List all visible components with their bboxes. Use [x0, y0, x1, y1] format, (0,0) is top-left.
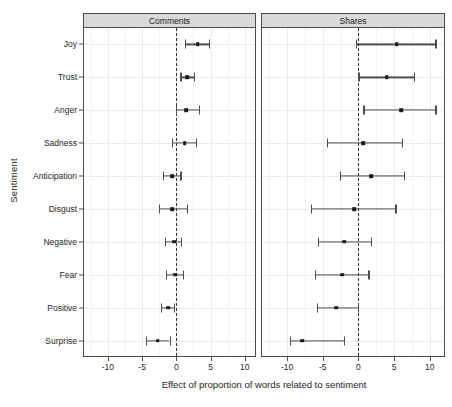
error-bar-cap-lower — [327, 139, 328, 148]
error-bar-cap-upper — [183, 270, 184, 279]
x-tick-label: 5 — [208, 362, 213, 372]
x-tick-mark — [142, 357, 143, 361]
x-tick-mark — [108, 357, 109, 361]
error-bar-cap-lower — [176, 106, 177, 115]
error-bar-cap-lower — [317, 303, 318, 312]
grid-line-horizontal — [84, 110, 255, 111]
data-point-surprise — [156, 339, 160, 343]
data-point-joy — [395, 43, 399, 47]
y-axis-tick-labels: JoyTrustAngerSadnessAnticipationDisgustN… — [20, 0, 83, 360]
facet-strip-comments: Comments — [83, 13, 256, 28]
x-tick-label: 0 — [356, 362, 361, 372]
grid-line-horizontal — [262, 77, 444, 78]
error-bar-cap-lower — [356, 40, 357, 49]
error-bar-cap-upper — [395, 204, 396, 213]
x-tick-label: 10 — [425, 362, 434, 372]
error-bar-cap-lower — [363, 106, 364, 115]
data-point-disgust — [352, 207, 356, 211]
x-tick-mark — [430, 357, 431, 361]
error-bar-cap-upper — [404, 172, 405, 181]
x-tick-label: 0 — [174, 362, 179, 372]
error-bar-cap-upper — [196, 139, 197, 148]
error-bar-cap-lower — [180, 73, 181, 82]
data-point-positive — [166, 306, 170, 310]
error-bar-cap-upper — [187, 204, 188, 213]
grid-line-horizontal — [84, 44, 255, 45]
x-tick-mark — [358, 357, 359, 361]
y-tick-label-positive: Positive — [47, 303, 77, 313]
y-axis-title-text: Sentiment — [8, 158, 19, 203]
error-bar-cap-lower — [185, 40, 186, 49]
error-bar-cap-upper — [180, 172, 181, 181]
error-bar-cap-upper — [368, 270, 369, 279]
error-bar-cap-upper — [181, 237, 182, 246]
data-point-trust — [385, 76, 389, 80]
x-axis-comments: -10-50510 — [83, 357, 256, 379]
facet-strip-label-comments: Comments — [149, 16, 190, 26]
facet-strip-shares: Shares — [261, 13, 445, 28]
y-tick-label-anticipation: Anticipation — [33, 171, 77, 181]
x-tick-label: -5 — [138, 362, 146, 372]
error-bar-cap-upper — [358, 303, 359, 312]
data-point-positive — [334, 306, 338, 310]
error-bar-cap-upper — [174, 303, 175, 312]
plot-area-shares — [261, 28, 445, 357]
x-tick-label: -10 — [102, 362, 114, 372]
error-bar-cap-lower — [318, 237, 319, 246]
error-bar-cap-upper — [402, 139, 403, 148]
data-point-anger — [184, 108, 188, 112]
data-point-anticipation — [170, 174, 174, 178]
error-bar-cap-lower — [172, 139, 173, 148]
error-bar-cap-lower — [159, 204, 160, 213]
data-point-anticipation — [369, 174, 373, 178]
error-bar-cap-upper — [371, 237, 372, 246]
error-bar-cap-lower — [161, 303, 162, 312]
x-tick-mark — [287, 357, 288, 361]
error-bar-cap-lower — [311, 204, 312, 213]
y-tick-label-surprise: Surprise — [45, 336, 77, 346]
error-bar-cap-lower — [146, 336, 147, 345]
error-bar-cap-upper — [435, 40, 436, 49]
data-point-sadness — [183, 141, 187, 145]
data-point-disgust — [170, 207, 174, 211]
error-bar-cap-upper — [344, 336, 345, 345]
chart-root: Sentiment JoyTrustAngerSadnessAnticipati… — [0, 0, 452, 407]
x-tick-label: -5 — [319, 362, 327, 372]
x-tick-mark — [176, 357, 177, 361]
error-bar-cap-lower — [340, 172, 341, 181]
y-tick-label-fear: Fear — [60, 270, 77, 280]
grid-line-horizontal — [84, 143, 255, 144]
error-bar-cap-upper — [194, 73, 195, 82]
grid-line-horizontal — [84, 77, 255, 78]
x-tick-mark — [245, 357, 246, 361]
error-bar-cap-lower — [166, 270, 167, 279]
x-tick-label: 5 — [392, 362, 397, 372]
x-axis-shares: -10-50510 — [261, 357, 445, 379]
data-point-anger — [399, 108, 403, 112]
data-point-negative — [342, 240, 346, 244]
x-tick-mark — [323, 357, 324, 361]
plot-area-comments — [83, 28, 256, 357]
error-bar-cap-lower — [315, 270, 316, 279]
panel-comments: Comments — [83, 13, 256, 357]
data-point-trust — [185, 76, 189, 80]
error-bar-cap-upper — [170, 336, 171, 345]
error-bar-line — [290, 340, 344, 341]
panel-shares: Shares — [261, 13, 445, 357]
y-tick-label-sadness: Sadness — [44, 138, 77, 148]
data-point-fear — [340, 273, 344, 277]
x-tick-mark — [394, 357, 395, 361]
x-tick-label: 10 — [240, 362, 249, 372]
data-point-sadness — [362, 141, 366, 145]
data-point-surprise — [300, 339, 304, 343]
data-point-negative — [172, 240, 176, 244]
error-bar-cap-upper — [199, 106, 200, 115]
error-bar-cap-lower — [290, 336, 291, 345]
y-tick-label-joy: Joy — [64, 39, 77, 49]
x-tick-label: -10 — [281, 362, 293, 372]
error-bar-cap-lower — [358, 73, 359, 82]
error-bar-cap-upper — [209, 40, 210, 49]
error-bar-cap-upper — [435, 106, 436, 115]
y-tick-label-disgust: Disgust — [49, 204, 77, 214]
zero-reference-line — [176, 28, 177, 356]
